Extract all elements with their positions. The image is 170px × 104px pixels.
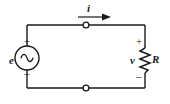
resistor-label: R	[152, 54, 159, 65]
source-minus-sign: –	[24, 68, 30, 79]
circuit-diagram: i e v R + – + –	[0, 0, 170, 104]
current-label: i	[87, 3, 90, 14]
resistor-plus-sign: +	[136, 36, 142, 47]
source-plus-sign: +	[24, 36, 30, 47]
bottom-node-icon	[83, 85, 89, 91]
voltage-label: v	[130, 55, 135, 66]
current-arrow-head-icon	[102, 14, 111, 21]
circuit-schematic-svg	[0, 0, 170, 104]
top-node-icon	[83, 22, 89, 28]
resistor-minus-sign: –	[136, 71, 142, 82]
source-label: e	[9, 55, 14, 66]
